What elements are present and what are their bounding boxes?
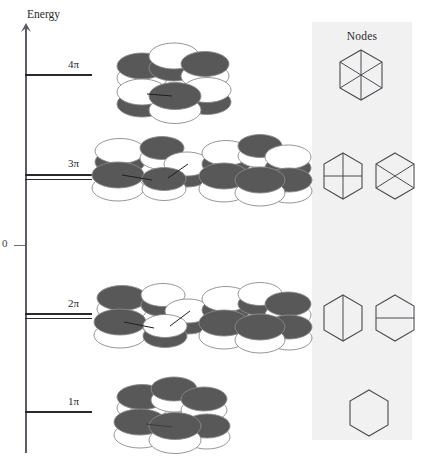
energy-level-label-4pi: 4π [68, 58, 79, 70]
nodes-panel-title: Nodes [312, 30, 412, 42]
hexagon-vertical-node [320, 293, 366, 343]
energy-level-3pi-upper [25, 174, 92, 176]
hexagon-vertical-horizontal-cross [320, 151, 366, 201]
hexagon-no-node [346, 388, 392, 438]
orbital-diagram-3pi-a [92, 142, 200, 206]
hexagon-three-diameters [336, 48, 386, 102]
orbital-diagram-2pi-a [92, 288, 200, 354]
orbital-diagram-4pi [112, 32, 222, 124]
energy-level-label-1pi: 1π [68, 395, 79, 407]
energy-level-3pi-lower [25, 179, 92, 181]
zero-label: 0 [2, 237, 8, 249]
orbital-diagram-2pi-b [196, 288, 304, 354]
energy-level-2pi-lower [25, 318, 92, 320]
energy-axis [25, 28, 27, 453]
energy-level-2pi-upper [25, 313, 92, 315]
zero-tick [14, 245, 25, 246]
energy-level-label-2pi: 2π [68, 297, 79, 309]
orbital-diagram-3pi-b [196, 142, 304, 206]
orbital-diagram-1pi [112, 378, 224, 458]
axis-label-energy: Energy [27, 8, 60, 20]
energy-level-1pi [25, 411, 92, 413]
energy-level-4pi [25, 74, 92, 76]
hexagon-horizontal-node [372, 293, 418, 343]
figure-canvas: Nodes [0, 0, 441, 467]
hexagon-x-cross [372, 151, 418, 201]
energy-level-label-3pi: 3π [68, 157, 79, 169]
